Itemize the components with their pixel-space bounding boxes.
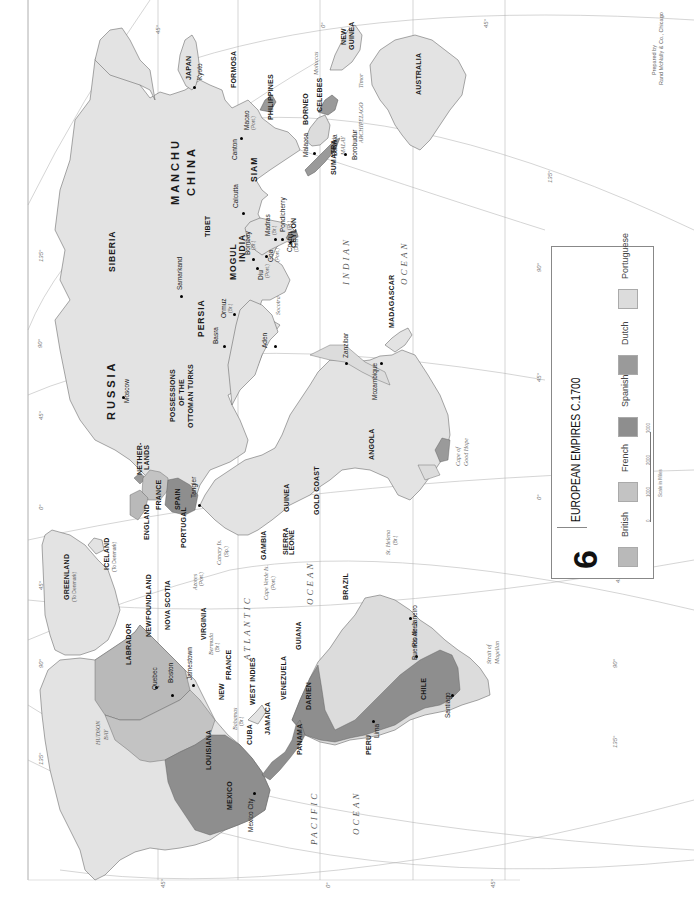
region-nova-scotia: NOVA SCOTIA (164, 580, 171, 630)
ocean-pacific-ocean-label: OCEAN (352, 790, 361, 835)
region-china: CHINA (186, 146, 197, 196)
city-borobudur: Borobudur (352, 130, 359, 160)
city-tangier: Tangier (191, 477, 198, 498)
region-iceland: ICELAND (103, 537, 110, 570)
city-dot-aden (274, 345, 277, 348)
ocean-indian-label: INDIAN (342, 237, 351, 285)
city-jamestown: Jamestown (187, 647, 194, 680)
graticule-lon-45-bottom: 45° (160, 879, 166, 888)
plate-number: 6 (566, 550, 605, 569)
city-st-helena: St. Helena (385, 530, 391, 555)
city-zanzibar: Zanzibar (343, 333, 350, 358)
region-iceland-sub: (To Denmark) (112, 542, 117, 572)
region-hudson-bay-2: BAY (103, 730, 109, 740)
graticule-lon-0-tl: 0° (38, 504, 44, 510)
city-rio: Rio de Janeiro (412, 605, 419, 647)
graticule-lon-135-right: 135° (547, 171, 553, 183)
city-dot-calcutta (242, 212, 245, 215)
city-moluccas: Moluccas (313, 52, 319, 75)
region-ottoman-2: OF THE (178, 379, 185, 406)
region-angola: ANGOLA (368, 428, 375, 460)
graticule-lon-0-right: 0° (320, 22, 326, 28)
region-malay-2: ARCHIPELAGO (358, 102, 364, 143)
city-dot-samarkand (180, 295, 183, 298)
map-title: EUROPEAN EMPIRES C.1700 (568, 378, 583, 523)
city-madras-sub: (Br.) (272, 226, 277, 235)
city-dot-mozambique (380, 362, 383, 365)
legend-swatch-french (618, 482, 638, 502)
credit-line-2: Rand McNally & Co., Chicago (659, 12, 665, 85)
city-cape-verde: Cape Verde Is. (263, 565, 269, 600)
region-ottoman-1: POSSESSIONS (169, 369, 176, 422)
region-virginia: VIRGINIA (200, 607, 207, 640)
graticule-lon-135-tl: 135° (38, 250, 44, 262)
legend-label-dutch: Dutch (620, 321, 630, 345)
region-formosa: FORMOSA (230, 51, 237, 88)
graticule-lon-45-bottom-r: 45° (490, 879, 496, 888)
legend-swatch-dutch (618, 355, 638, 375)
region-australia: AUSTRALIA (415, 53, 422, 95)
region-hudson-bay-1: HUDSON (95, 721, 101, 745)
graticule-lon-135-bl: 135° (38, 753, 44, 765)
city-mozambique: Mozambique (372, 363, 379, 400)
region-russia: RUSSIA (106, 360, 117, 420)
ocean-pacific-label: PACIFIC (310, 791, 319, 845)
city-dot-malacca (313, 152, 316, 155)
graticule-lon-45-right: 45° (483, 19, 489, 28)
city-socotra: Socotra (275, 296, 281, 315)
city-mexico-city: Mexico City (248, 798, 255, 832)
region-gold-coast: GOLD COAST (313, 466, 320, 515)
city-timor: Timor (358, 74, 364, 88)
graticule-lon-90-tl: 90° (37, 339, 43, 348)
region-persia: PERSIA (197, 299, 206, 337)
city-goa-sub: (Port.) (275, 248, 280, 262)
city-cochin-sub: (Dutch) (294, 236, 299, 252)
city-azores-sub: (Port.) (199, 572, 204, 586)
city-dot-madras (274, 238, 277, 241)
graticule-lon-45-top: 45° (155, 25, 161, 34)
region-celebes: CELEBES (316, 78, 323, 112)
city-canton: Canton (232, 139, 239, 160)
city-dot-tangier (198, 504, 201, 507)
city-lima: Lima (374, 724, 381, 738)
city-malacca: Malacca (303, 133, 310, 157)
region-france: FRANCE (155, 480, 162, 510)
region-siberia: SIBERIA (108, 231, 117, 272)
city-batavia: Batavia (332, 134, 339, 156)
graticule-lon-135-br: 135° (612, 736, 618, 748)
city-st-helena-sub: (Br.) (393, 536, 398, 545)
city-santiago: Santiago (445, 692, 452, 718)
city-dot-lima (372, 720, 375, 723)
city-kyoto: Kyoto (197, 63, 204, 80)
city-cape-2: Good Hope (463, 438, 469, 466)
city-calcutta: Calcutta (233, 184, 240, 208)
region-new-france-2: FRANCE (225, 650, 232, 680)
region-manchu: MANCHU (170, 138, 181, 205)
city-basra: Basra (213, 327, 220, 344)
ocean-indian-ocean-label: OCEAN (400, 240, 409, 285)
region-gambia: GAMBIA (260, 530, 267, 560)
region-newfoundland: NEWFOUNDLAND (145, 574, 152, 637)
city-dot-pondicherry (281, 238, 284, 241)
region-siam: SIAM (250, 157, 259, 182)
graticule-lon-90-br: 90° (612, 659, 618, 668)
scale-bar (650, 432, 651, 522)
city-samarkand: Samarkand (177, 257, 184, 290)
city-canary: Canary Is. (216, 540, 222, 565)
city-aden: Aden (262, 333, 269, 348)
scale-label: Scale in Miles (658, 469, 663, 497)
region-panama: PANAMA (296, 724, 303, 755)
city-pondicherry-sub: (Fr.) (287, 221, 292, 230)
city-dot-zanzibar (345, 362, 348, 365)
city-ormuz-sub: (Br.) (228, 304, 233, 313)
region-madagascar: MADAGASCAR (388, 275, 395, 328)
city-bahamas-sub: (Br.) (239, 717, 244, 726)
region-tibet: TIBET (204, 216, 211, 237)
city-moscow: Moscow (124, 379, 131, 403)
region-philippines: PHILIPPINES (267, 74, 274, 120)
region-new-guinea-2: GUINEA (348, 22, 355, 50)
city-canary-sub: (Sp.) (224, 546, 229, 557)
graticule-lon-45-tl: 45° (38, 411, 44, 420)
legend-label-british: British (620, 512, 630, 537)
graticule-lon-45-mid: 45° (536, 373, 542, 382)
